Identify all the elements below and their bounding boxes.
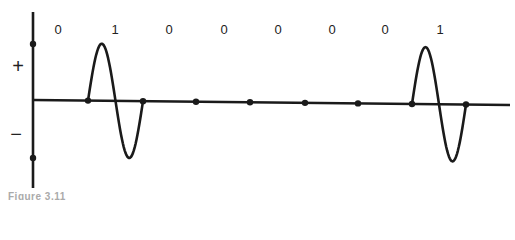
bit-boundary-dot xyxy=(302,100,308,106)
bit-boundary-dot xyxy=(463,101,469,107)
axis-dot xyxy=(30,155,36,161)
bit-label: 0 xyxy=(165,22,172,37)
negative-sign-label: − xyxy=(10,123,22,146)
bit-label: 0 xyxy=(220,22,227,37)
axis-dot xyxy=(30,41,36,47)
bit-boundary-dot xyxy=(355,100,361,106)
bit-boundary-dot xyxy=(193,99,199,105)
bit-label: 0 xyxy=(54,22,61,37)
bit-label: 0 xyxy=(274,22,281,37)
bit-boundary-dot xyxy=(247,99,253,105)
bit-label: 1 xyxy=(436,22,443,37)
bit-boundary-dot xyxy=(85,97,91,103)
figure-caption: Figure 3.11 xyxy=(8,191,66,200)
bit-label: 0 xyxy=(381,22,388,37)
bit-boundary-dot xyxy=(409,101,415,107)
bit-boundary-dot xyxy=(140,98,146,104)
positive-sign-label: + xyxy=(12,55,24,78)
bit-label: 0 xyxy=(328,22,335,37)
bit-label: 1 xyxy=(111,22,118,37)
